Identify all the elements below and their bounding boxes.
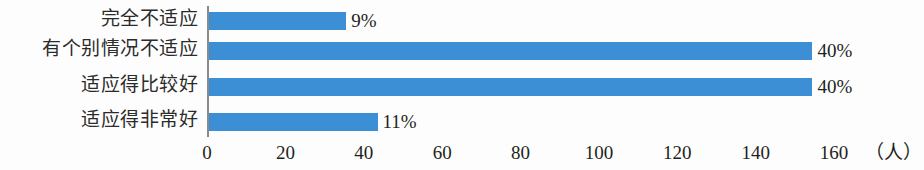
- category-axis-labels: 完全不适应有个别情况不适应适应得比较好适应得非常好: [0, 0, 202, 140]
- category-label: 适应得非常好: [0, 110, 198, 129]
- value-axis-tick: 140: [741, 143, 770, 162]
- category-label: 有个别情况不适应: [0, 39, 198, 58]
- bar: [209, 113, 378, 131]
- value-axis-ticks: （人） 020406080100120140160: [0, 141, 924, 170]
- category-label: 完全不适应: [0, 9, 198, 28]
- bar-value-label: 11%: [378, 112, 417, 131]
- value-axis-unit-label: （人）: [865, 143, 922, 162]
- value-axis-tick: 100: [585, 143, 614, 162]
- value-axis-tick: 80: [511, 143, 530, 162]
- value-axis-tick: 160: [820, 143, 849, 162]
- value-axis-tick: 0: [202, 143, 212, 162]
- bar: [209, 78, 812, 96]
- value-axis-tick: 120: [663, 143, 692, 162]
- value-axis-tick: 60: [433, 143, 452, 162]
- bar-value-label: 9%: [346, 11, 376, 30]
- plot-area: 9%40%40%11%: [207, 0, 924, 140]
- value-axis-tick: 40: [354, 143, 373, 162]
- bar-value-label: 40%: [812, 77, 852, 96]
- category-label: 适应得比较好: [0, 75, 198, 94]
- bar: [209, 12, 346, 30]
- value-axis-tick: 20: [276, 143, 295, 162]
- bar: [209, 42, 812, 60]
- bar-chart: 完全不适应有个别情况不适应适应得比较好适应得非常好 9%40%40%11% （人…: [0, 0, 924, 170]
- bar-value-label: 40%: [812, 41, 852, 60]
